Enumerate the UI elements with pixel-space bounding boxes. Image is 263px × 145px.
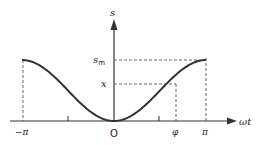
tick-label-neg-pi: −π bbox=[15, 127, 30, 137]
tick-label-pi: π bbox=[201, 127, 209, 137]
y-axis-label: s bbox=[110, 7, 115, 18]
x-axis-arrow-icon bbox=[227, 118, 237, 125]
diagram-svg: s ωt O −π φ π sm x bbox=[0, 0, 263, 145]
y-label-sm: sm bbox=[93, 54, 105, 67]
tick-label-phi: φ bbox=[172, 127, 179, 137]
y-label-x: x bbox=[101, 78, 107, 89]
displacement-diagram: s ωt O −π φ π sm x bbox=[0, 0, 263, 145]
y-axis-arrow-icon bbox=[111, 19, 118, 30]
origin-label: O bbox=[110, 128, 118, 139]
x-axis-label: ωt bbox=[239, 116, 252, 127]
